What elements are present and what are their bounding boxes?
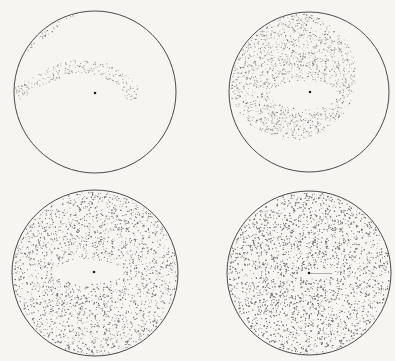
- center-point: [308, 272, 311, 275]
- panel-top-left: [14, 11, 176, 173]
- center-point: [309, 91, 312, 94]
- stipple-dots: [15, 15, 138, 100]
- center-point: [93, 271, 96, 274]
- stipple-dots: [14, 192, 177, 355]
- panel-bottom-right: [227, 191, 391, 355]
- figure-page: [0, 0, 395, 361]
- stipple-figure: [0, 0, 395, 361]
- center-point: [94, 92, 97, 95]
- stipple-dots: [231, 14, 355, 140]
- panel-bottom-left: [12, 190, 178, 356]
- panel-top-right: [229, 12, 389, 172]
